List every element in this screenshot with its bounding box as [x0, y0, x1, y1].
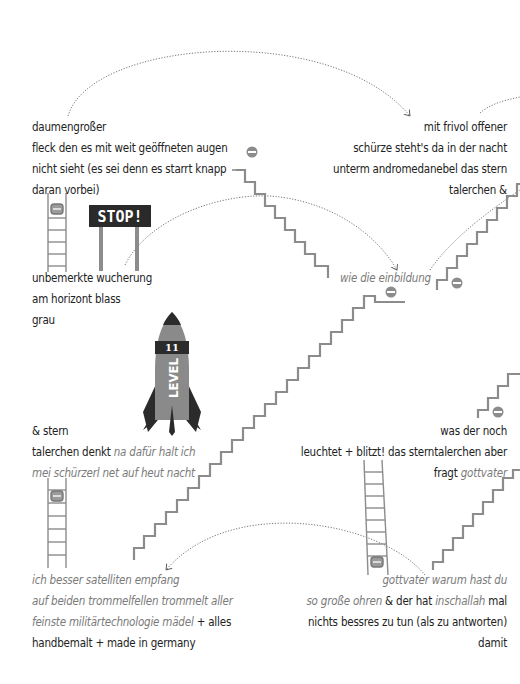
text-segment: mit frivol offener: [424, 120, 507, 134]
poem-line: wie die einbildung: [340, 268, 431, 289]
no-entry-icon: [493, 407, 504, 418]
poem-line: damit: [306, 633, 507, 654]
poem-canvas: STOP! 11 LEVEL daumengroßerfleck den es …: [0, 0, 520, 684]
italic-segment: wie die einbildung: [340, 271, 431, 285]
poem-line: daumengroßer: [32, 117, 228, 138]
text-segment: mal: [485, 594, 507, 608]
text-segment: nicht sieht (es sei denn es starrt knapp: [32, 162, 226, 176]
poem-block-2: mit frivol offenerschürze steht's da in …: [333, 117, 507, 201]
poem-line: unterm andromedanebel das stern: [333, 159, 507, 180]
poem-line: schürze steht's da in der nacht: [333, 138, 507, 159]
arc-top-right: [480, 97, 520, 113]
poem-block-8: gottvater warum hast duso große ohren & …: [306, 570, 507, 654]
poem-block-1: daumengroßerfleck den es mit weit geöffn…: [32, 117, 228, 201]
text-segment: talerchen &: [449, 183, 507, 197]
italic-segment: so große ohren: [306, 594, 382, 608]
poem-line: gottvater warum hast du: [306, 570, 507, 591]
poem-line: nicht sieht (es sei denn es starrt knapp: [32, 159, 228, 180]
poem-block-7: ich besser satelliten empfangauf beiden …: [32, 570, 233, 654]
text-segment: unterm andromedanebel das stern: [333, 162, 507, 176]
text-segment: fragt: [434, 466, 461, 480]
text-segment: talerchen denkt: [32, 445, 114, 459]
text-segment: grau: [32, 313, 55, 327]
arc-top: [68, 51, 410, 116]
text-segment: leuchtet + blitzt! das sterntalerchen ab…: [301, 445, 507, 459]
italic-segment: ich besser satelliten empfang: [32, 573, 179, 587]
text-segment: daumengroßer: [32, 120, 106, 134]
rocket-level-number: 11: [165, 342, 179, 353]
poem-line: was der noch: [301, 421, 507, 442]
italic-segment: na dafür halt ich: [114, 445, 196, 459]
text-segment: am horizont blass: [32, 292, 121, 306]
ladder-bottom-left: [48, 478, 66, 568]
poem-line: handbemalt + made in germany: [32, 633, 233, 654]
stairs-descending-top: [236, 170, 328, 278]
text-segment: schürze steht's da in der nacht: [353, 141, 507, 155]
poem-line: so große ohren & der hat inschallah mal: [306, 591, 507, 612]
poem-line: daran vorbei): [32, 180, 228, 201]
stairs: [134, 170, 520, 570]
poem-line: leuchtet + blitzt! das sterntalerchen ab…: [301, 442, 507, 463]
poem-line: fleck den es mit weit geöffneten augen: [32, 138, 228, 159]
ladder-top-left: [48, 193, 66, 272]
text-segment: damit: [478, 636, 507, 650]
poem-block-4: wie die einbildung: [340, 268, 431, 289]
stairs-bottom-right: [433, 470, 520, 570]
text-segment: fleck den es mit weit geöffneten augen: [32, 141, 228, 155]
text-segment: was der noch: [440, 424, 507, 438]
text-segment: & stern: [32, 424, 68, 438]
poem-line: & stern: [32, 421, 195, 442]
text-segment: handbemalt + made in germany: [32, 636, 195, 650]
poem-line: mit frivol offener: [333, 117, 507, 138]
poem-line: ich besser satelliten empfang: [32, 570, 233, 591]
arc-middle: [125, 196, 397, 270]
text-segment: nichts bessres zu tun (als zu antworten): [308, 615, 507, 629]
no-entry-icon: [452, 278, 463, 289]
text-segment: & der hat: [382, 594, 435, 608]
poem-line: unbemerkte wucherung: [32, 268, 152, 289]
italic-segment: gottvater: [461, 466, 507, 480]
italic-segment: gottvater warum hast du: [382, 573, 507, 587]
poem-line: nichts bessres zu tun (als zu antworten): [306, 612, 507, 633]
stop-sign: STOP!: [89, 205, 151, 271]
poem-line: fragt gottvater: [301, 463, 507, 484]
rocket-level-label: LEVEL: [166, 358, 181, 398]
italic-segment: auf beiden trommelfellen trommelt aller: [32, 594, 233, 608]
italic-segment: feinste militärtechnologie mädel: [32, 615, 194, 629]
poem-line: grau: [32, 310, 152, 331]
text-segment: daran vorbei): [32, 183, 99, 197]
no-entry-icon: [247, 147, 258, 158]
text-segment: unbemerkte wucherung: [32, 271, 152, 285]
text-segment: + alles: [194, 615, 232, 629]
poem-line: am horizont blass: [32, 289, 152, 310]
poem-line: mei schürzerl net auf heut nacht: [32, 463, 195, 484]
poem-line: talerchen denkt na dafür halt ich: [32, 442, 195, 463]
stop-sign-label: STOP!: [97, 208, 142, 226]
poem-line: talerchen &: [333, 180, 507, 201]
poem-line: auf beiden trommelfellen trommelt aller: [32, 591, 233, 612]
poem-block-3: unbemerkte wucherungam horizont blassgra…: [32, 268, 152, 331]
poem-block-6: was der nochleuchtet + blitzt! das stern…: [301, 421, 507, 484]
poem-block-5: & sterntalerchen denkt na dafür halt ich…: [32, 421, 195, 484]
italic-segment: mei schürzerl net auf heut nacht: [32, 466, 195, 480]
poem-line: feinste militärtechnologie mädel + alles: [32, 612, 233, 633]
italic-segment: inschallah: [435, 594, 485, 608]
